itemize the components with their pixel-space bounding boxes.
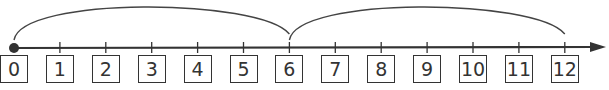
jump-arc-0-to-6 — [14, 7, 289, 40]
number-box-9: 9 — [413, 55, 441, 83]
number-box-10: 10 — [459, 55, 487, 83]
jump-arc-6-to-12 — [289, 7, 564, 40]
number-box-11: 11 — [505, 55, 533, 83]
number-box-4: 4 — [184, 55, 212, 83]
number-box-1: 1 — [46, 55, 74, 83]
number-box-12: 12 — [551, 55, 579, 83]
number-box-8: 8 — [367, 55, 395, 83]
number-box-5: 5 — [230, 55, 258, 83]
number-line-axis — [14, 47, 594, 48]
number-box-0: 0 — [0, 55, 28, 83]
arrow-head-icon — [590, 42, 606, 52]
number-box-6: 6 — [275, 55, 303, 83]
jump-arcs — [14, 7, 565, 40]
start-dot-icon — [9, 43, 19, 53]
number-box-7: 7 — [321, 55, 349, 83]
number-box-2: 2 — [92, 55, 120, 83]
number-box-3: 3 — [138, 55, 166, 83]
